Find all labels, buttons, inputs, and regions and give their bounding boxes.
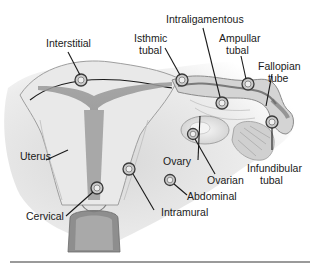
label-ovarian: Ovarian [207,174,244,186]
site-interstitial [75,74,87,86]
site-ampullar [242,78,254,90]
label-isthmic-line1: Isthmic [134,32,167,44]
ovary [181,116,229,144]
label-abdominal: Abdominal [187,190,237,202]
label-infundibular-line2: tubal [260,174,283,186]
label-cervical: Cervical [26,210,64,222]
label-interstitial: Interstitial [46,37,91,49]
label-ovary: Ovary [163,155,192,167]
bottom-rule [10,261,310,263]
label-intramural: Intramural [161,206,208,218]
site-intraligamentous [216,97,228,109]
label-isthmic-line2: tubal [139,44,162,56]
site-isthmic [176,74,188,86]
label-uterus: Uterus [20,150,51,162]
ectopic-pregnancy-diagram: Interstitial Isthmic tubal Intraligament… [0,0,315,272]
site-ovarian [188,129,199,140]
label-infundibular-line1: Infundibular [247,162,302,174]
label-ampullar-line2: tubal [226,44,249,56]
label-fallopian-line2: tube [268,72,289,84]
label-fallopian-line1: Fallopian [258,60,301,72]
site-intramural [123,163,135,175]
site-infundibular [266,116,278,128]
label-ampullar-line1: Ampullar [219,32,261,44]
site-abdominal [165,175,176,186]
label-intraligamentous: Intraligamentous [166,13,244,25]
